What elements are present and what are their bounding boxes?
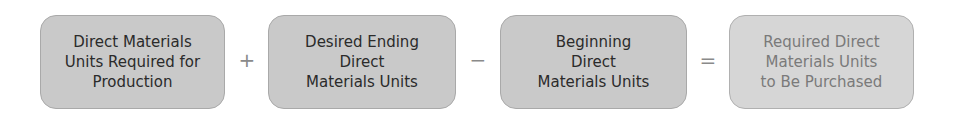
term-desired-ending-units: Desired Ending Direct Materials Units [268, 15, 456, 109]
minus-operator: − [463, 48, 493, 72]
term-line: Desired Ending [305, 32, 419, 52]
term-line: Production [65, 72, 200, 92]
term-line: Beginning [538, 32, 650, 52]
term-line: Materials Units [305, 72, 419, 92]
term-units-required-for-production: Direct Materials Units Required for Prod… [40, 15, 225, 109]
equals-operator: = [693, 48, 723, 72]
term-line: Direct [305, 52, 419, 72]
result-line: to Be Purchased [761, 72, 883, 92]
term-beginning-units: Beginning Direct Materials Units [500, 15, 687, 109]
term-line: Materials Units [538, 72, 650, 92]
result-units-to-be-purchased: Required Direct Materials Units to Be Pu… [729, 15, 914, 109]
result-line: Required Direct [761, 32, 883, 52]
term-line: Direct Materials [65, 32, 200, 52]
term-line: Units Required for [65, 52, 200, 72]
result-line: Materials Units [761, 52, 883, 72]
term-line: Direct [538, 52, 650, 72]
plus-operator: + [232, 48, 262, 72]
